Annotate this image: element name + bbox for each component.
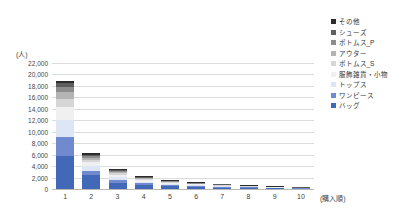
legend-item-label: アウター bbox=[339, 49, 367, 58]
x-axis-tick-label: 3 bbox=[116, 193, 120, 200]
y-axis-tick-label: 10,000 bbox=[28, 128, 48, 135]
bar-segment[interactable] bbox=[82, 175, 100, 189]
bar-column[interactable] bbox=[82, 153, 100, 189]
bar-segment[interactable] bbox=[56, 99, 74, 107]
legend-item-label: 服飾雑貨・小物 bbox=[339, 70, 388, 79]
legend-item[interactable]: シューズ bbox=[331, 28, 388, 37]
legend-swatch-icon bbox=[331, 51, 336, 56]
chart-legend: その他シューズボトムス_Pアウターボトムス_S服飾雑貨・小物トップスワンピースバ… bbox=[331, 17, 388, 110]
gridline bbox=[52, 63, 314, 64]
legend-swatch-icon bbox=[331, 30, 336, 35]
legend-item[interactable]: アウター bbox=[331, 49, 388, 58]
gridline bbox=[52, 97, 314, 98]
gridline bbox=[52, 86, 314, 87]
y-axis-tick-label: 0 bbox=[44, 186, 48, 193]
y-axis-tick-label: 18,000 bbox=[28, 82, 48, 89]
y-axis-tick-label: 4,000 bbox=[32, 163, 48, 170]
x-axis-tick-label: 4 bbox=[142, 193, 146, 200]
legend-swatch-icon bbox=[331, 93, 336, 98]
gridline bbox=[52, 74, 314, 75]
legend-swatch-icon bbox=[331, 40, 336, 45]
legend-item-label: その他 bbox=[339, 17, 360, 26]
legend-item-label: ボトムス_P bbox=[339, 38, 375, 47]
legend-item[interactable]: トップス bbox=[331, 80, 388, 89]
legend-item-label: ボトムス_S bbox=[339, 59, 375, 68]
x-axis-tick-label: 10 bbox=[297, 193, 305, 200]
legend-item[interactable]: バッグ bbox=[331, 101, 388, 110]
legend-swatch-icon bbox=[331, 82, 336, 87]
bar-column[interactable] bbox=[187, 182, 205, 189]
x-axis-title: (購入順) bbox=[320, 193, 346, 203]
bar-segment[interactable] bbox=[56, 120, 74, 137]
legend-item-label: トップス bbox=[339, 80, 367, 89]
gridline bbox=[52, 143, 314, 144]
gridline bbox=[52, 109, 314, 110]
legend-swatch-icon bbox=[331, 61, 336, 66]
bar-column[interactable] bbox=[135, 176, 153, 189]
bar-segment[interactable] bbox=[56, 107, 74, 121]
legend-item-label: バッグ bbox=[339, 101, 360, 110]
legend-item[interactable]: 服飾雑貨・小物 bbox=[331, 70, 388, 79]
y-axis-tick-label: 2,000 bbox=[32, 174, 48, 181]
plot-area bbox=[52, 63, 314, 189]
x-axis-tick-label: 6 bbox=[194, 193, 198, 200]
legend-swatch-icon bbox=[331, 103, 336, 108]
x-axis-tick-label: 7 bbox=[220, 193, 224, 200]
gridline bbox=[52, 120, 314, 121]
bar-column[interactable] bbox=[56, 81, 74, 189]
y-axis-tick-label: 14,000 bbox=[28, 105, 48, 112]
y-axis-tick-labels: 22,00020,00018,00016,00014,00012,00010,0… bbox=[0, 63, 48, 189]
legend-item[interactable]: ボトムス_P bbox=[331, 38, 388, 47]
y-axis-tick-label: 8,000 bbox=[32, 140, 48, 147]
x-axis-tick-label: 1 bbox=[63, 193, 67, 200]
bar-column[interactable] bbox=[161, 180, 179, 189]
legend-item[interactable]: その他 bbox=[331, 17, 388, 26]
bar-segment[interactable] bbox=[56, 156, 74, 189]
bar-column[interactable] bbox=[109, 169, 127, 189]
legend-swatch-icon bbox=[331, 19, 336, 24]
y-axis-tick-label: 16,000 bbox=[28, 94, 48, 101]
y-axis-tick-label: 6,000 bbox=[32, 151, 48, 158]
x-axis-tick-label: 5 bbox=[168, 193, 172, 200]
y-axis-unit-label: (人) bbox=[16, 49, 28, 59]
y-axis-tick-label: 20,000 bbox=[28, 71, 48, 78]
x-axis-line bbox=[52, 189, 314, 190]
y-axis-tick-label: 22,000 bbox=[28, 60, 48, 67]
legend-swatch-icon bbox=[331, 72, 336, 77]
legend-item[interactable]: ワンピース bbox=[331, 91, 388, 100]
stacked-column-chart: (人) 22,00020,00018,00016,00014,00012,000… bbox=[0, 0, 412, 224]
legend-item-label: ワンピース bbox=[339, 91, 374, 100]
gridline bbox=[52, 132, 314, 133]
bar-segment[interactable] bbox=[56, 137, 74, 156]
legend-item[interactable]: ボトムス_S bbox=[331, 59, 388, 68]
x-axis-tick-label: 8 bbox=[247, 193, 251, 200]
y-axis-tick-label: 12,000 bbox=[28, 117, 48, 124]
x-axis-tick-label: 2 bbox=[89, 193, 93, 200]
x-axis-tick-label: 9 bbox=[273, 193, 277, 200]
legend-item-label: シューズ bbox=[339, 28, 367, 37]
